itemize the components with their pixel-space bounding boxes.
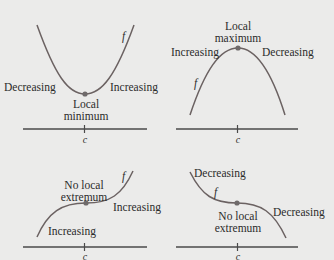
left-behavior-label: Increasing (48, 225, 96, 237)
point-label-line2: maximum (215, 32, 262, 44)
panel-local-maximum-graphics (176, 45, 298, 133)
point-label-line1: No local (64, 179, 103, 191)
critical-point (82, 91, 87, 96)
function-label: f (194, 77, 197, 89)
first-derivative-diagram: f Decreasing Increasing Local minimum c … (0, 0, 334, 260)
point-label-line1: Local (225, 20, 251, 32)
point-label-line2: extremum (215, 222, 262, 234)
curve-f (190, 48, 285, 115)
critical-point (234, 200, 239, 205)
axis-label-c: c (236, 251, 240, 260)
axis-label-c: c (83, 134, 87, 146)
left-behavior-label: Increasing (171, 46, 219, 58)
function-label: f (122, 170, 125, 182)
axis-label-c: c (83, 251, 87, 260)
right-behavior-label: Increasing (110, 81, 158, 93)
left-behavior-label: Decreasing (4, 81, 56, 93)
right-behavior-label: Increasing (113, 201, 161, 213)
right-behavior-label: Decreasing (262, 46, 314, 58)
point-label-line2: minimum (64, 110, 109, 122)
left-behavior-label: Decreasing (194, 167, 246, 179)
point-label-line2: extremum (61, 191, 108, 203)
function-label: f (122, 30, 125, 42)
critical-point (235, 45, 240, 50)
axis-label-c: c (236, 134, 240, 146)
function-label: f (214, 186, 217, 198)
right-behavior-label: Decreasing (273, 206, 325, 218)
curves-and-axes (0, 0, 334, 260)
point-label-line1: No local (218, 210, 257, 222)
point-label-line1: Local (73, 98, 99, 110)
